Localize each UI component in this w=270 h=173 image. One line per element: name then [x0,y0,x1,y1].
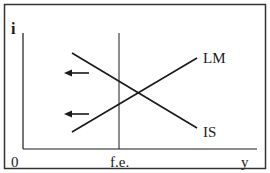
lm-label: LM [203,50,226,66]
origin-label: 0 [11,154,19,170]
outer-frame [5,5,266,169]
islm-diagram: i 0 f.e. y LM IS [0,0,270,173]
x-axis-label: y [241,154,249,170]
full-employment-label: f.e. [110,154,129,170]
y-axis-label: i [11,20,16,37]
is-label: IS [203,124,216,140]
